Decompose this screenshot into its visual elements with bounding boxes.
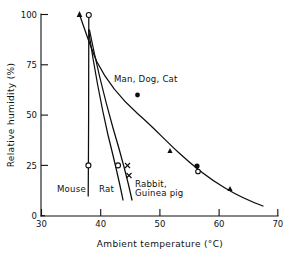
x-tick-label-70: 70 bbox=[272, 219, 283, 229]
series-label-man-dog-cat: Man, Dog, Cat bbox=[114, 74, 178, 84]
curve-rabbit-guinea-pig bbox=[90, 30, 133, 200]
data-point-circle-mouse-mid bbox=[86, 163, 91, 168]
data-point-triangle-mdc-14 bbox=[227, 186, 232, 191]
x-tick-label-60: 60 bbox=[214, 219, 225, 229]
chart-plot-area: 100 75 50 25 0 30 40 50 60 70 Ambient te… bbox=[0, 0, 295, 262]
data-point-x-rabbit bbox=[125, 163, 130, 168]
y-tick-label-100: 100 bbox=[21, 10, 37, 20]
series-label-rat: Rat bbox=[99, 184, 114, 194]
y-tick-label-25: 25 bbox=[26, 161, 37, 171]
data-point-circle-rat bbox=[116, 163, 121, 168]
y-tick-label-75: 75 bbox=[26, 60, 37, 70]
data-point-circle-mdc-60 bbox=[135, 93, 140, 98]
y-axis-title: Relative humidity (%) bbox=[6, 63, 16, 168]
x-tick-label-40: 40 bbox=[95, 219, 106, 229]
data-point-circle-mdc-24 bbox=[194, 163, 199, 168]
y-tick-label-50: 50 bbox=[26, 110, 37, 120]
series-label-guinea-pig: Guinea pig bbox=[135, 188, 184, 198]
x-axis-title: Ambient temperature (°C) bbox=[97, 239, 223, 249]
data-point-circle-mouse-top bbox=[86, 13, 91, 18]
data-point-x-guinea-pig bbox=[127, 173, 132, 178]
data-point-triangle-mdc-30 bbox=[167, 148, 172, 153]
x-tick-label-30: 30 bbox=[36, 219, 47, 229]
data-point-circle-mdc-22 bbox=[196, 169, 201, 174]
y-axis-ticks bbox=[41, 15, 48, 216]
x-axis-ticks bbox=[42, 209, 278, 216]
curve-mouse bbox=[88, 15, 89, 197]
x-tick-label-50: 50 bbox=[154, 219, 165, 229]
series-label-mouse: Mouse bbox=[57, 184, 86, 194]
curve-man-dog-cat bbox=[80, 15, 264, 207]
chart-figure: 100 75 50 25 0 30 40 50 60 70 Ambient te… bbox=[0, 0, 295, 262]
data-point-triangle-top bbox=[77, 11, 83, 17]
